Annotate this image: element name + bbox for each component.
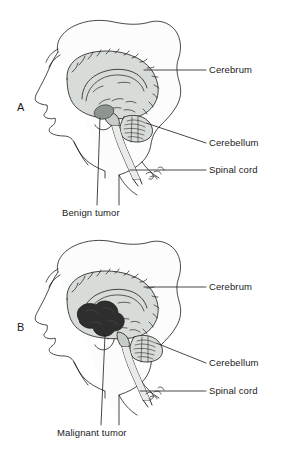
caption-benign-tumor: Benign tumor	[62, 207, 120, 218]
label-cerebellum-b: Cerebellum	[209, 357, 259, 368]
label-cerebrum-b: Cerebrum	[209, 281, 252, 292]
leader-line-cerebellum	[156, 343, 206, 363]
label-spinal-cord-a: Spinal cord	[209, 164, 258, 175]
brain-tumor-comparison-figure: A	[0, 0, 281, 450]
panel-b: B	[0, 225, 281, 450]
caption-malignant-tumor: Malignant tumor	[57, 427, 127, 438]
label-cerebrum-a: Cerebrum	[209, 64, 252, 75]
panel-b-illustration	[0, 225, 281, 450]
shoulder-line	[119, 395, 137, 415]
panel-a: A	[0, 0, 281, 225]
label-cerebellum-a: Cerebellum	[209, 137, 259, 148]
panel-a-illustration	[0, 0, 281, 225]
label-spinal-cord-b: Spinal cord	[209, 385, 258, 396]
vertebra-marks	[146, 167, 164, 179]
